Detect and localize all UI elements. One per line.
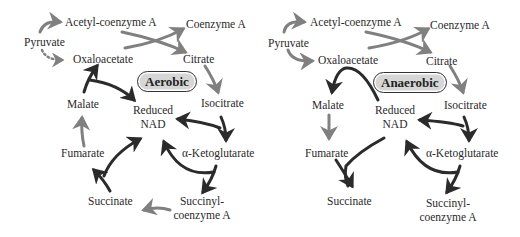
node-citrate: Citrate xyxy=(183,53,214,65)
node-succinate: Succinate xyxy=(88,195,133,207)
node-acetyl-coa: Acetyl-coenzyme A xyxy=(310,16,402,28)
arrow-pyruvate-oxaloacetate xyxy=(288,50,312,61)
node-coenzyme-a: Coenzyme A xyxy=(430,19,490,31)
node-ketoglutarate: α-Ketoglutarate xyxy=(426,147,498,159)
node-succinyl-line2: coenzyme A xyxy=(172,209,232,221)
anaerobic-badge: Anaerobic xyxy=(373,72,447,93)
node-acetyl-coa: Acetyl-coenzyme A xyxy=(65,16,157,28)
arrow-malate-nad xyxy=(90,80,134,100)
arrow-pyruvate-acetylcoa xyxy=(284,22,304,32)
arrow-citrate-isocitrate xyxy=(205,66,218,92)
node-reduced-nad-line1: Reduced xyxy=(370,104,420,116)
node-oxaloacetate: Oxaloacetate xyxy=(318,54,378,66)
node-isocitrate: Isocitrate xyxy=(201,97,244,109)
node-succinyl-line2: coenzyme A xyxy=(418,211,478,223)
arrow-ketoglutarate-succinylcoa xyxy=(203,166,216,192)
arrow-isocitrate-ketoglutarate xyxy=(464,117,469,140)
arrow-isocitrate-nad xyxy=(178,119,220,128)
aerobic-badge: Aerobic xyxy=(137,71,197,92)
anaerobic-panel: Pyruvate Acetyl-coenzyme A Coenzyme A Ox… xyxy=(260,0,520,237)
node-coenzyme-a: Coenzyme A xyxy=(186,18,246,30)
arrow-fumarate-malate xyxy=(82,118,84,146)
arrow-oxaloacetate-malate xyxy=(332,68,378,100)
node-succinate: Succinate xyxy=(327,195,372,207)
arrow-to-coenzymea xyxy=(369,29,428,48)
arrow-succinate-nad xyxy=(104,139,140,176)
node-fumarate: Fumarate xyxy=(61,147,104,159)
node-malate: Malate xyxy=(312,99,344,111)
node-isocitrate: Isocitrate xyxy=(444,99,487,111)
arrow-to-coenzymea xyxy=(125,29,183,48)
node-malate: Malate xyxy=(67,98,99,110)
arrow-succinylcoa-succinate xyxy=(144,208,170,210)
node-oxaloacetate: Oxaloacetate xyxy=(73,53,133,65)
node-citrate: Citrate xyxy=(426,55,457,67)
node-succinyl-line1: Succinyl- xyxy=(172,195,232,207)
node-pyruvate: Pyruvate xyxy=(24,36,65,48)
node-reduced-nad-line1: Reduced xyxy=(128,104,178,116)
node-reduced-nad-line2: NAD xyxy=(128,118,178,130)
arrow-ketoglutarate-succinylcoa xyxy=(447,166,460,192)
node-succinyl-line1: Succinyl- xyxy=(418,197,478,209)
node-fumarate: Fumarate xyxy=(305,147,348,159)
arrow-pyruvate-oxaloacetate-dotted xyxy=(42,50,62,60)
node-ketoglutarate: α-Ketoglutarate xyxy=(182,147,254,159)
arrow-isocitrate-ketoglutarate xyxy=(221,117,226,140)
arrow-succinate-fumarate xyxy=(94,170,110,191)
arrow-nad-succinate xyxy=(345,138,384,186)
aerobic-panel: Pyruvate Acetyl-coenzyme A Coenzyme A Ox… xyxy=(0,0,260,237)
arrow-pyruvate-acetylcoa xyxy=(40,22,60,32)
arrow-citrate-isocitrate xyxy=(450,66,463,92)
node-reduced-nad-line2: NAD xyxy=(370,118,420,130)
node-pyruvate: Pyruvate xyxy=(268,37,309,49)
arrow-isocitrate-nad xyxy=(420,120,463,126)
